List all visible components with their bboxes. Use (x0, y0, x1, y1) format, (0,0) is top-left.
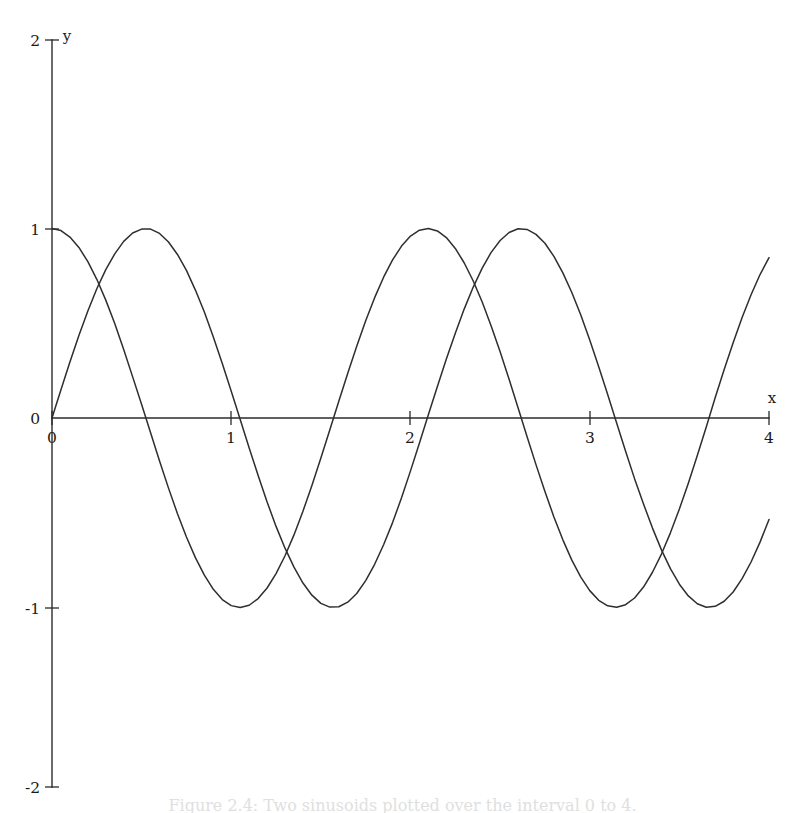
x-axis-label: x (768, 389, 777, 407)
x-tick-label-1: 1 (226, 429, 236, 447)
y-tick-label-1: 1 (30, 221, 40, 239)
x-tick-label-4: 4 (764, 429, 774, 447)
y-axis-label: y (62, 27, 72, 45)
y-tick-label-m1: -1 (25, 600, 40, 618)
x-tick-label-3: 3 (585, 429, 595, 447)
plot-canvas: 2 1 0 -1 -2 0 1 2 3 4 y x (0, 0, 805, 813)
figure-caption: Figure 2.4: Two sinusoids plotted over t… (0, 796, 805, 813)
x-tick-label-0: 0 (47, 429, 57, 447)
x-tick-label-2: 2 (405, 429, 415, 447)
y-tick-label-0: 0 (30, 410, 40, 428)
y-tick-label-2: 2 (30, 32, 40, 50)
figure-container: 2 1 0 -1 -2 0 1 2 3 4 y x Figure 2.4: Tw… (0, 0, 805, 813)
y-tick-label-m2: -2 (25, 779, 40, 797)
